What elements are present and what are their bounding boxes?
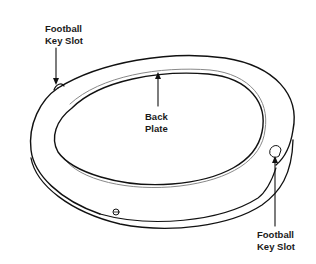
label-key-slot-top-line1: Football — [45, 23, 83, 35]
diagram-canvas: Football Key Slot Back Plate Football Ke… — [0, 0, 316, 264]
label-key-slot-bottom-line2: Key Slot — [257, 241, 295, 253]
label-key-slot-top: Football Key Slot — [45, 23, 83, 47]
label-key-slot-top-line2: Key Slot — [45, 35, 83, 47]
label-back-plate: Back Plate — [145, 111, 168, 135]
label-back-plate-line2: Plate — [145, 123, 168, 135]
label-key-slot-bottom: Football Key Slot — [257, 229, 295, 253]
label-key-slot-bottom-line1: Football — [257, 229, 295, 241]
key-slot-notch-bottom — [270, 146, 281, 158]
label-back-plate-line1: Back — [145, 111, 168, 123]
